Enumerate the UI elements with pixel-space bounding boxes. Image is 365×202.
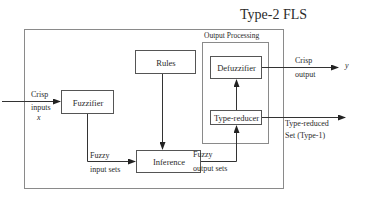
diagram-title: Type-2 FLS bbox=[240, 8, 307, 22]
crisp-inputs-var: x bbox=[37, 114, 41, 122]
rules-label: Rules bbox=[136, 51, 196, 74]
inference-label: Inference bbox=[137, 151, 201, 173]
crisp-output-label-1: Crisp bbox=[295, 57, 312, 65]
crisp-output-label-2: output bbox=[295, 71, 315, 79]
crisp-inputs-label-1: Crisp bbox=[31, 91, 48, 99]
fuzzy-output-label-1: Fuzzy bbox=[193, 151, 213, 159]
type-reducer-label: Type-reducer bbox=[211, 111, 262, 125]
defuzzifier-label: Defuzzifier bbox=[211, 57, 262, 79]
output-processing-label: Output Processing bbox=[204, 32, 259, 40]
crisp-output-var: y bbox=[345, 62, 349, 70]
fuzzy-input-label-1: Fuzzy bbox=[90, 152, 110, 160]
crisp-inputs-label-2: inputs bbox=[31, 104, 51, 112]
type-reduced-label-1: Type-reduced bbox=[285, 120, 329, 128]
fuzzifier-label: Fuzzifier bbox=[62, 91, 114, 114]
fuzzy-output-label-2: output sets bbox=[193, 165, 227, 173]
type-reduced-label-2: Set (Type-1) bbox=[285, 132, 325, 140]
fuzzy-input-label-2: input sets bbox=[90, 166, 120, 174]
